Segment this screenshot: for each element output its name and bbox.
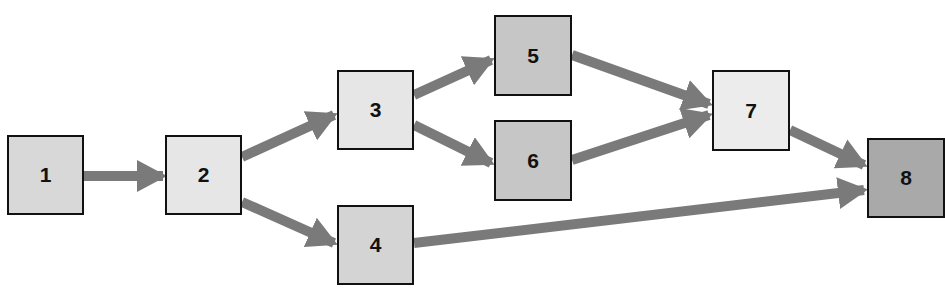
node-8: 8 [867,138,945,218]
node-2: 2 [165,135,242,215]
edges-layer [0,0,945,293]
node-6: 6 [494,120,572,201]
node-1: 1 [7,135,84,215]
arrow-2-to-3 [242,115,334,157]
flow-diagram: 1 2 3 4 5 6 7 8 [0,0,945,293]
arrow-6-to-7 [572,115,709,160]
node-label: 6 [527,149,539,173]
node-label: 4 [370,233,382,257]
arrow-4-to-8 [414,190,864,243]
arrow-7-to-8 [790,130,864,165]
arrow-5-to-7 [572,55,709,104]
arrow-3-to-5 [414,60,491,95]
node-label: 8 [900,166,912,190]
node-label: 7 [745,99,757,123]
arrow-2-to-4 [242,202,334,243]
node-3: 3 [337,70,414,150]
node-label: 3 [370,98,382,122]
node-7: 7 [712,70,790,151]
node-4: 4 [337,205,414,285]
arrow-3-to-6 [414,125,491,163]
node-5: 5 [494,15,572,96]
node-label: 5 [527,44,539,68]
node-label: 2 [198,163,210,187]
node-label: 1 [40,163,52,187]
